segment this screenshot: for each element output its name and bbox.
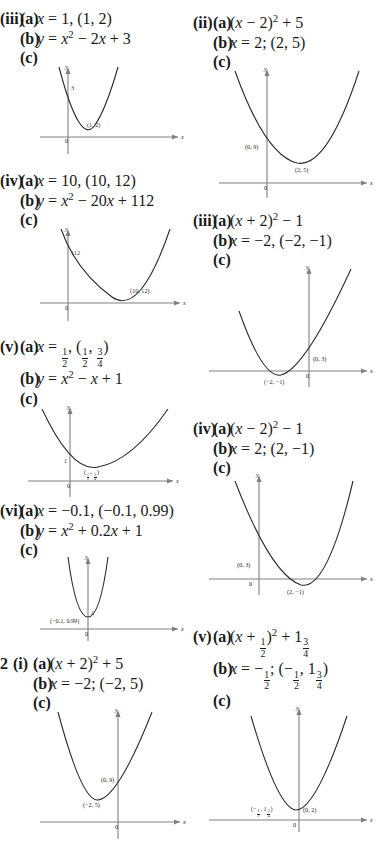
exercise-item-left-vi: (vi) (a) x = −0.1, (−0.1, 0.99) (b) y = …	[0, 502, 193, 641]
origin-label: 0	[67, 482, 70, 489]
part-label-c: (c)	[20, 49, 37, 67]
exercise-item-left-iv: (iv) (a) x = 10, (10, 12) (b) y = x2 − 2…	[0, 172, 193, 321]
exercise-item-right-ii: (ii) (a) (x − 2)2 + 5 (b) x = 2; (2, 5) …	[193, 14, 386, 198]
roman-numeral: (iii)	[193, 212, 213, 230]
y-axis-label: y	[306, 263, 309, 270]
origin-label: 0	[293, 821, 296, 828]
exercise-item-right-v: (v) (a) (x + 12)2 + 134 (b) x = −12; (−1…	[193, 628, 386, 832]
part-label-a: (a)	[213, 212, 230, 230]
x-axis-label: x	[181, 625, 184, 632]
parabola-graph-left-vi: y x 0 1 (−0.1, 0.99)	[40, 551, 193, 641]
roman-numeral: (v)	[0, 338, 20, 356]
parabola-graph-left-v: y x 0 1 (12, 34)	[28, 399, 193, 497]
exercise-item-right-iii: (iii) (a) (x + 2)2 − 1 (b) x = −2, (−2, …	[193, 212, 386, 391]
part-label-a: (a)	[20, 172, 37, 190]
part-label-a: (a)	[20, 338, 37, 356]
x-axis-label: x	[176, 477, 179, 484]
y-intercept-label: 112	[71, 249, 80, 256]
answer-line-b: (b) x = −2; (−2, 5)	[0, 675, 193, 693]
x-axis-label: x	[370, 575, 373, 582]
question-number: 2	[0, 655, 13, 673]
roman-numeral: (vi)	[0, 502, 20, 520]
part-b-expression: x = 2; (2, 5)	[230, 34, 386, 52]
part-a-expression: x = 10, (10, 12)	[37, 172, 193, 190]
y-intercept-label: (0, 2)	[303, 806, 316, 813]
x-axis-label: x	[181, 133, 184, 140]
parabola-graph-left-iii: y x 0 3 (1, 2)	[40, 59, 193, 154]
y-intercept-label: 1	[91, 609, 94, 616]
origin-label: 0	[249, 580, 252, 587]
answer-page: (iii) (a) x = 1, (1, 2) (b) y = x2 − 2x …	[0, 0, 387, 844]
y-intercept-label: (0, 3)	[313, 355, 326, 362]
roman-numeral: (v)	[193, 628, 213, 646]
parabola-graph-right-v: y x 0 (0, 2) (−12, 134)	[209, 702, 386, 832]
vertex-label: (−0.1, 0.99)	[50, 617, 79, 624]
parabola-graph-right-iv: y x 0 (0, 3) (2, −1)	[209, 469, 386, 599]
vertex-label: (10, 12)	[130, 287, 150, 294]
part-b-expression: x = −2, (−2, −1)	[230, 232, 386, 250]
part-a-expression: (x + 2)2 + 5	[50, 655, 193, 673]
answer-line-a: (iii) (a) x = 1, (1, 2)	[0, 10, 193, 28]
part-a-expression: (x − 2)2 + 5	[230, 14, 386, 32]
answer-line-a: (v) (a) x = 12, (12, 34)	[0, 338, 193, 369]
answer-line-a: 2 (i) (a) (x + 2)2 + 5	[0, 655, 193, 673]
part-label-b: (b)	[33, 675, 50, 693]
vertex-label: (2, −1)	[287, 588, 304, 595]
answer-line-b: (b) x = 2; (2, 5)	[193, 34, 386, 52]
part-label-c: (c)	[20, 211, 37, 229]
part-a-expression: (x + 2)2 − 1	[230, 212, 386, 230]
y-axis-label: y	[65, 63, 68, 70]
exercise-item-left-v: (v) (a) x = 12, (12, 34) (b) y = x2 − x …	[0, 338, 193, 497]
x-axis-label: x	[183, 299, 186, 306]
origin-label: 0	[65, 137, 68, 144]
y-intercept-label: (0, 9)	[245, 143, 258, 150]
y-intercept-label: (0, 9)	[101, 776, 114, 783]
answer-line-a: (v) (a) (x + 12)2 + 134	[193, 628, 386, 659]
y-axis-label: y	[67, 403, 70, 410]
y-axis-label: y	[296, 704, 299, 711]
answer-line-a: (iii) (a) (x + 2)2 − 1	[193, 212, 386, 230]
y-axis-label: y	[65, 225, 68, 232]
part-label-b: (b)	[213, 34, 230, 52]
parabola-graph-left-2i: y x 0 (0, 9) (−2, 5)	[40, 704, 193, 839]
part-label-b: (b)	[20, 192, 37, 210]
part-label-a: (a)	[33, 655, 50, 673]
origin-label: 0	[65, 304, 68, 311]
part-b-expression: y = x2 + 0.2x + 1	[37, 522, 193, 540]
part-label-b: (b)	[20, 30, 37, 48]
part-a-expression: x = 12, (12, 34)	[37, 338, 193, 369]
part-a-expression: x = −0.1, (−0.1, 0.99)	[37, 502, 193, 520]
y-intercept-label: 1	[64, 457, 67, 464]
exercise-item-left-2i: 2 (i) (a) (x + 2)2 + 5 (b) x = −2; (−2, …	[0, 655, 193, 839]
part-label-b: (b)	[20, 370, 37, 388]
roman-numeral: (iv)	[193, 420, 213, 438]
part-b-expression: x = −12; (−12, 134)	[230, 660, 386, 691]
answer-line-a: (iv) (a) (x − 2)2 − 1	[193, 420, 386, 438]
part-label-c: (c)	[20, 541, 37, 559]
answer-line-b: (b) y = x2 + 0.2x + 1	[0, 522, 193, 540]
y-axis-label: y	[264, 65, 267, 72]
origin-label: 0	[115, 823, 118, 830]
part-label-b: (b)	[213, 232, 230, 250]
answer-line-b: (b) y = x2 − 20x + 112	[0, 192, 193, 210]
roman-numeral: (ii)	[193, 14, 213, 32]
part-b-expression: y = x2 − x + 1	[37, 370, 193, 388]
answer-line-a: (vi) (a) x = −0.1, (−0.1, 0.99)	[0, 502, 193, 520]
part-label-b: (b)	[213, 660, 230, 678]
vertex-label: (12, 34)	[84, 468, 99, 482]
vertex-label: (−2, −1)	[264, 378, 284, 385]
part-b-expression: y = x2 − 2x + 3	[37, 30, 193, 48]
y-axis-label: y	[85, 553, 88, 560]
parabola-graph-right-ii: y x 0 (0, 9) (2, 5)	[219, 63, 386, 198]
vertex-label: (2, 5)	[295, 166, 308, 173]
parabola-graph-left-iv: y x 0 112 (10, 12)	[40, 221, 193, 321]
origin-label: 0	[264, 184, 267, 191]
y-intercept-label: 3	[71, 84, 74, 91]
roman-numeral: (iii)	[0, 10, 20, 28]
answer-line-b: (b) x = 2; (2, −1)	[193, 440, 386, 458]
part-a-expression: (x − 2)2 − 1	[230, 420, 386, 438]
vertex-label: (−12, 134)	[251, 805, 273, 819]
left-column: (iii) (a) x = 1, (1, 2) (b) y = x2 − 2x …	[0, 0, 193, 844]
answer-line-b: (b) y = x2 − 2x + 3	[0, 30, 193, 48]
x-axis-label: x	[370, 179, 373, 186]
